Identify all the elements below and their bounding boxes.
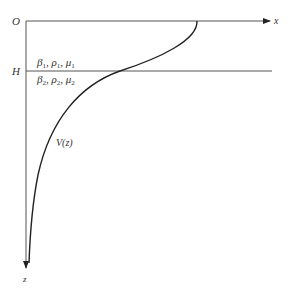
layer2-params: β2, ρ2, μ2 [36, 73, 75, 87]
layer2-mu-sub: 2 [71, 79, 75, 87]
layer1-params: β1, ρ1, μ1 [36, 56, 75, 70]
layer1-mu-sub: 1 [71, 62, 75, 70]
velocity-profile-diagram: O x H z V(z) β1, ρ1, μ1 β2, ρ2, μ2 [0, 0, 292, 296]
x-axis-label: x [273, 15, 279, 26]
z-axis-label: z [22, 274, 27, 284]
interface-label: H [11, 65, 21, 77]
curve-label: V(z) [56, 137, 73, 149]
origin-label: O [12, 15, 20, 27]
